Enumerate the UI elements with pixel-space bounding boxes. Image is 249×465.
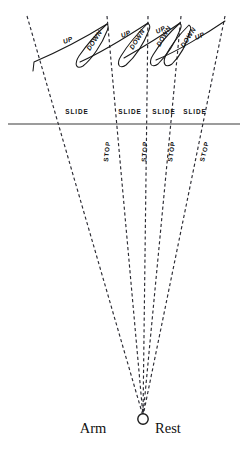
fan-line-3 [143, 16, 148, 416]
stop-label: STOP [166, 140, 176, 162]
fan-line-2 [107, 16, 143, 416]
stop-label: STOP [140, 141, 148, 162]
up-label: UP [120, 29, 132, 39]
down-label: DOWN [85, 29, 103, 52]
stop-label: STOP [102, 141, 111, 163]
fan-line-1 [27, 16, 143, 416]
slide-label: SLIDE [65, 108, 88, 115]
rest-label: Rest [155, 420, 181, 436]
stop-label: STOP [198, 140, 210, 162]
motion-diagram-svg: UP UP UP UP DOWN DOWN DOWN DOWN SLIDE SL… [0, 0, 249, 465]
arm-label: Arm [80, 420, 107, 436]
fan-line-5 [143, 16, 225, 416]
figure-root: UP UP UP UP DOWN DOWN DOWN DOWN SLIDE SL… [0, 0, 249, 465]
slide-label: SLIDE [118, 108, 141, 115]
fan-line-4 [143, 16, 181, 416]
slide-labels-group: SLIDE SLIDE SLIDE SLIDE [65, 108, 206, 115]
fan-lines-group [27, 16, 225, 416]
pivot-circle-icon [138, 414, 148, 424]
slide-label: SLIDE [152, 108, 175, 115]
slide-label: SLIDE [183, 108, 206, 115]
